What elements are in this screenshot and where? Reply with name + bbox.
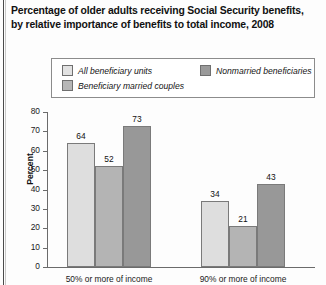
- legend-item-label: Beneficiary married couples: [78, 81, 184, 91]
- y-axis-tick: [43, 131, 47, 132]
- x-axis-category-label: 50% or more of income: [49, 274, 169, 284]
- y-axis-tick-label: 50: [31, 164, 40, 174]
- page-edge-rule: [3, 0, 4, 285]
- y-axis-tick: [43, 209, 47, 210]
- y-axis-tick: [43, 112, 47, 113]
- chart-page: Percentage of older adults receiving Soc…: [0, 0, 326, 285]
- y-axis-tick: [43, 151, 47, 152]
- y-axis-tick: [43, 267, 47, 268]
- y-axis-tick: [43, 228, 47, 229]
- y-axis-tick-label: 70: [31, 125, 40, 135]
- x-axis-category-label: 90% or more of income: [183, 274, 303, 284]
- chart-title-line-2: by relative importance of benefits to to…: [11, 18, 319, 32]
- legend-item-label: All beneficiary units: [78, 66, 152, 76]
- legend-item-all-beneficiary-units: All beneficiary units: [62, 65, 152, 76]
- legend-swatch-icon: [62, 65, 73, 76]
- bar: [123, 126, 151, 267]
- legend-item-beneficiary-married-couples: Beneficiary married couples: [62, 80, 184, 91]
- y-axis-tick-label: 60: [31, 145, 40, 155]
- y-axis-tick-label: 40: [31, 184, 40, 194]
- chart-title: Percentage of older adults receiving Soc…: [11, 4, 319, 32]
- bar-value-label: 34: [201, 189, 229, 199]
- legend-swatch-icon: [200, 65, 211, 76]
- bar: [229, 226, 257, 267]
- bar: [95, 166, 123, 267]
- y-axis-tick-label: 0: [35, 261, 40, 271]
- bar: [67, 143, 95, 267]
- bar-value-label: 21: [229, 214, 257, 224]
- y-axis-tick: [43, 248, 47, 249]
- bar: [257, 184, 285, 267]
- legend-swatch-icon: [62, 80, 73, 91]
- y-axis-tick-label: 20: [31, 222, 40, 232]
- y-axis-tick: [43, 190, 47, 191]
- x-axis-line: [47, 267, 315, 268]
- y-axis-line: [47, 112, 48, 268]
- bar: [201, 201, 229, 267]
- y-axis-tick-label: 30: [31, 203, 40, 213]
- bar-value-label: 64: [67, 131, 95, 141]
- chart-title-line-1: Percentage of older adults receiving Soc…: [11, 4, 319, 18]
- y-axis-tick: [43, 170, 47, 171]
- plot-area: Percent 8070605040302010064527350% or mo…: [47, 112, 315, 268]
- y-axis-tick-label: 80: [31, 106, 40, 116]
- bar-value-label: 43: [257, 172, 285, 182]
- bar-value-label: 52: [95, 154, 123, 164]
- bar-value-label: 73: [123, 114, 151, 124]
- legend-item-label: Nonmarried beneficiaries: [216, 66, 312, 76]
- page-edge-rule-secondary: [5, 0, 6, 285]
- y-axis-tick-label: 10: [31, 242, 40, 252]
- legend-item-nonmarried-beneficiaries: Nonmarried beneficiaries: [200, 65, 312, 76]
- chart-legend: All beneficiary units Beneficiary marrie…: [51, 58, 315, 98]
